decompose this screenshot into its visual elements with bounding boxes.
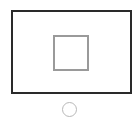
square-outline-icon <box>53 35 89 71</box>
home-button[interactable] <box>62 102 77 117</box>
